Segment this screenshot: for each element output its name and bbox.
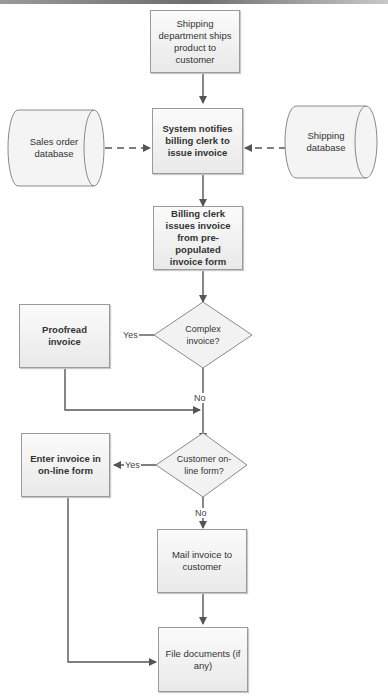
edge-label-online-yes: Yes [124, 460, 141, 470]
node-text: Enter invoice in on-line form [27, 453, 104, 477]
edge-label-complex-yes: Yes [122, 330, 139, 340]
node-customer-online-form: Customer on-line form? [168, 448, 240, 482]
node-proofread-invoice: Proofread invoice [19, 304, 110, 368]
node-sales-order-database: Sales order database [12, 110, 96, 186]
node-complex-invoice: Complex invoice? [168, 318, 238, 352]
node-mail-invoice: Mail invoice to customer [157, 529, 247, 593]
node-text: File documents (if any) [164, 648, 242, 672]
node-file-documents: File documents (if any) [158, 627, 248, 692]
node-text: Billing clerk issues invoice from pre-po… [159, 208, 237, 268]
edge-label-online-no: No [195, 508, 207, 518]
arrow-enter-to-file [68, 497, 156, 662]
node-text: Shipping department ships product to cus… [156, 18, 234, 66]
node-shipping-database: Shipping database [288, 106, 364, 178]
node-text: Customer on-line form? [173, 453, 235, 477]
node-shipping-department-ships: Shipping department ships product to cus… [150, 10, 240, 73]
node-text: System notifies billing clerk to issue i… [158, 123, 237, 159]
node-enter-invoice-online: Enter invoice in on-line form [21, 433, 110, 497]
node-text: Shipping database [293, 130, 359, 154]
edge-label-complex-no: No [194, 393, 206, 403]
node-text: Mail invoice to customer [163, 549, 241, 573]
node-text: Proofread invoice [25, 324, 104, 348]
node-system-notifies: System notifies billing clerk to issue i… [152, 108, 243, 174]
node-text: Complex invoice? [173, 323, 233, 347]
arrow-proofread-merge [65, 368, 200, 410]
node-text: Sales order database [17, 136, 91, 160]
node-billing-clerk-issues: Billing clerk issues invoice from pre-po… [153, 206, 243, 270]
